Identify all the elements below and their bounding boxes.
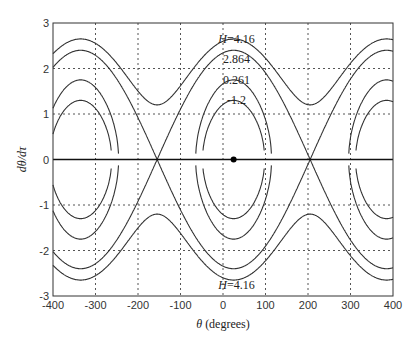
x-tick-label: 100 [256,299,274,311]
phase-portrait-chart: -400-300-200-1000100200300400-3-2-10123H… [0,0,419,343]
y-tick-label: 0 [43,154,49,166]
x-tick-label: 300 [341,299,359,311]
x-tick-label: -100 [169,299,191,311]
x-tick-label: -300 [84,299,106,311]
y-tick-label: -3 [39,290,49,302]
phase-curve-h-1.2 [53,100,393,150]
x-tick-label: 0 [220,299,226,311]
curve-annotation: H=4.16 [217,278,254,292]
phase-curve-h0.261 [53,80,393,154]
y-tick-label: 1 [43,108,49,120]
y-tick-label: 3 [43,17,49,29]
y-tick-label: 2 [43,63,49,75]
curve-annotation: 0.261 [223,73,250,87]
x-tick-label: 200 [299,299,317,311]
equilibrium-point-marker [231,157,237,163]
curve-annotation: 2.864 [223,52,250,66]
x-tick-label: -200 [127,299,149,311]
curve-annotation: -1.2 [227,93,246,107]
y-axis-label: dθ/dτ [15,146,29,172]
x-tick-label: 400 [384,299,402,311]
curve-annotation: H=4.16 [217,32,254,46]
y-tick-label: -2 [39,245,49,257]
y-tick-label: -1 [39,199,49,211]
x-axis-label: θ (degrees) [196,317,250,331]
